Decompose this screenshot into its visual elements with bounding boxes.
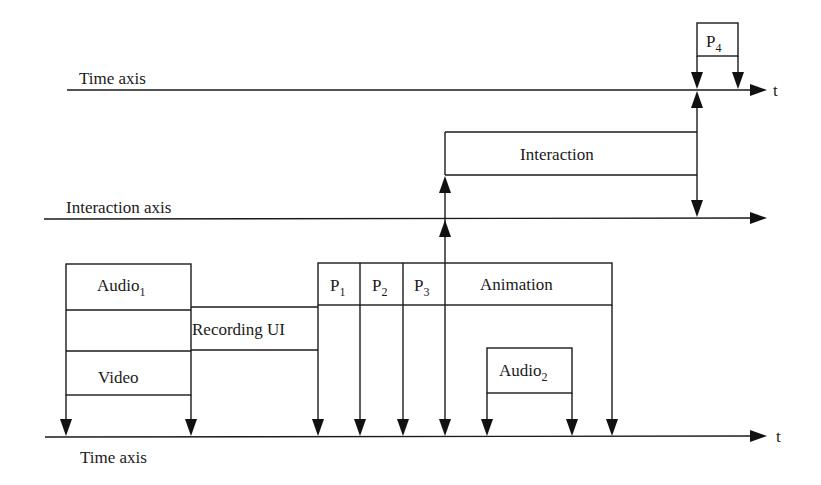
axis-arrow-icon [750, 84, 767, 96]
axis-arrow-icon [750, 430, 767, 442]
recording-ui-block: Recording UI [191, 307, 318, 350]
p4-label: P [706, 32, 715, 51]
arrow-up-icon [439, 220, 451, 237]
audio2-subscript: 2 [542, 370, 548, 384]
p1-label: P [330, 276, 339, 295]
bottom-time-axis-t-label: t [776, 427, 781, 446]
video-label: Video [98, 368, 139, 387]
p2-label: P [372, 276, 381, 295]
arrow-down-icon [185, 419, 197, 436]
arrow-down-icon [691, 72, 703, 89]
p2-subscript: 2 [381, 285, 387, 299]
audio-video-block: Audio1 Video [60, 264, 197, 436]
top-time-axis-label: Time axis [79, 69, 146, 88]
audio1-label: Audio [97, 276, 140, 295]
interaction-axis: Interaction axis [44, 198, 767, 224]
arrow-down-icon [481, 419, 493, 436]
recording-ui-label: Recording UI [192, 320, 285, 339]
p3-subscript: 3 [423, 285, 429, 299]
arrow-down-icon [60, 419, 72, 436]
arrow-down-icon [606, 419, 618, 436]
arrow-down-icon [439, 419, 451, 436]
audio2-block: Audio2 [481, 348, 578, 436]
arrow-down-icon [566, 419, 578, 436]
interaction-box: Interaction [445, 91, 703, 217]
p4-box: P4 [691, 23, 744, 89]
arrow-down-icon [397, 419, 409, 436]
arrow-down-icon [312, 419, 324, 436]
arrow-down-icon [354, 419, 366, 436]
bottom-time-axis: Time axis t [45, 427, 781, 467]
interaction-label: Interaction [520, 145, 594, 164]
audio2-label: Audio [499, 361, 542, 380]
p1-subscript: 1 [339, 285, 345, 299]
top-time-axis-t-label: t [773, 81, 778, 100]
bottom-time-axis-label: Time axis [80, 448, 147, 467]
animation-label: Animation [480, 275, 553, 294]
p3-label: P [414, 276, 423, 295]
animation-to-interaction-link [439, 176, 451, 263]
arrow-down-icon [691, 200, 703, 217]
interaction-axis-label: Interaction axis [66, 198, 171, 217]
arrow-down-icon [732, 72, 744, 89]
audio1-subscript: 1 [140, 285, 146, 299]
axis-arrow-icon [750, 212, 767, 224]
arrow-up-icon [439, 176, 451, 193]
timeline-diagram: Time axis t P4 Interaction Interaction a… [0, 0, 821, 485]
top-time-axis: Time axis t [67, 69, 778, 100]
p4-subscript: 4 [715, 41, 721, 55]
arrow-up-icon [691, 91, 703, 108]
